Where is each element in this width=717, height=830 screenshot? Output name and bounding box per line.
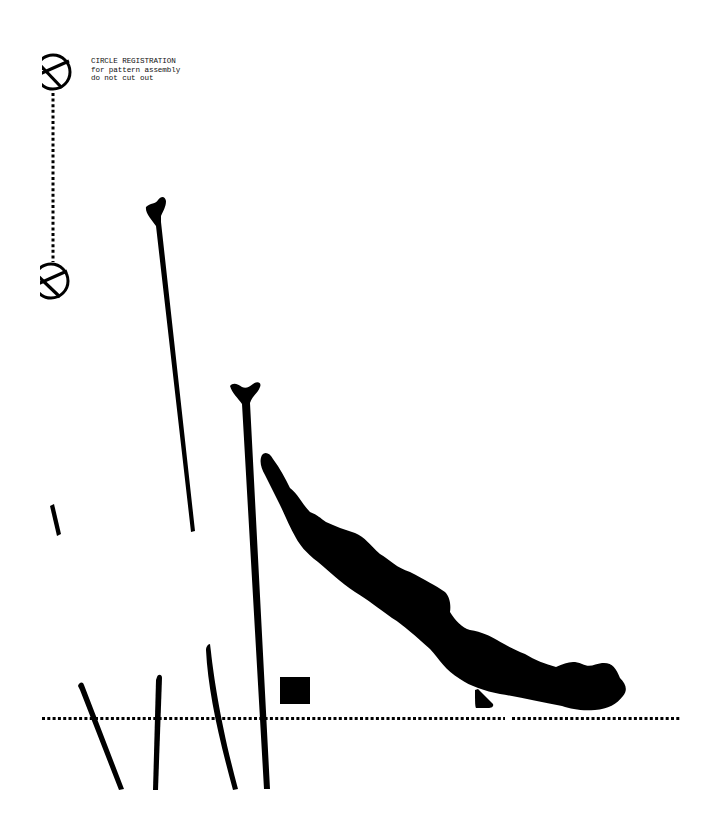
stroke-2: [153, 675, 162, 790]
leaf-shape: [261, 453, 626, 710]
pattern-sheet: CIRCLE REGISTRATION for pattern assembly…: [0, 0, 717, 830]
registration-circle-bottom-icon: [34, 264, 68, 298]
registration-note-line-2: for pattern assembly: [91, 66, 180, 75]
registration-circle-top-icon: [36, 55, 70, 89]
registration-note-line-1: CIRCLE REGISTRATION: [91, 57, 180, 66]
notch-square: [280, 677, 310, 704]
pattern-drawing: [0, 0, 717, 830]
stroke-1: [78, 682, 124, 790]
registration-note-line-3: do not cut out: [91, 74, 180, 83]
stroke-tick-left: [50, 504, 61, 536]
notch-triangle: [475, 689, 493, 708]
y-stroke-right: [230, 382, 270, 789]
registration-note: CIRCLE REGISTRATION for pattern assembly…: [91, 57, 180, 83]
y-stroke-left: [146, 197, 195, 532]
